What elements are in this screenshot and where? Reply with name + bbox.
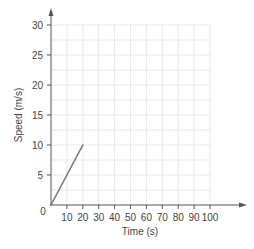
y-axis-label: Speed (m/s) — [13, 88, 24, 142]
y-tick-label: 30 — [32, 20, 44, 31]
speed-time-chart: 10203040506070809010051015202530 0 Time … — [0, 0, 254, 249]
y-tick-label: 5 — [37, 170, 43, 181]
x-tick-label: 30 — [93, 212, 105, 223]
x-tick-label: 40 — [109, 212, 121, 223]
x-axis-label: Time (s) — [122, 226, 158, 237]
y-axis-arrow-icon — [49, 8, 54, 16]
y-tick-label: 10 — [32, 140, 44, 151]
x-tick-label: 80 — [173, 212, 185, 223]
y-tick-label: 15 — [32, 110, 44, 121]
x-axis-arrow-icon — [239, 203, 247, 208]
x-tick-label: 70 — [157, 212, 169, 223]
y-tick-label: 25 — [32, 50, 44, 61]
y-tick-label: 20 — [32, 80, 44, 91]
x-tick-label: 10 — [61, 212, 73, 223]
origin-label: 0 — [40, 206, 46, 217]
ticks: 10203040506070809010051015202530 — [32, 20, 219, 224]
axes — [49, 8, 248, 208]
grid-lines — [51, 25, 210, 205]
x-tick-label: 50 — [125, 212, 137, 223]
x-tick-label: 90 — [189, 212, 201, 223]
x-tick-label: 100 — [202, 212, 219, 223]
x-tick-label: 60 — [141, 212, 153, 223]
x-tick-label: 20 — [77, 212, 89, 223]
